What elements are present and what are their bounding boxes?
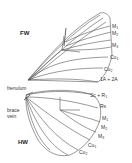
hw-vein-m3: M3 [98,134,104,141]
hw-vein-cu1: Cu1 [88,143,96,150]
hw-vein-rs: Rs [100,104,106,109]
frenulum-label: frenulum [7,86,26,91]
hindwing-label: HW [18,139,28,145]
fw-vein-cu1: Cu1 [110,55,118,62]
forewing-label: FW [20,30,29,36]
fw-vein-cu2: Cu2 [104,67,112,74]
fw-vein-m3: M3 [112,43,118,50]
hw-vein-m2: M2 [101,125,107,132]
hw-vein-m1: M1 [102,116,108,123]
hw-vein-cu2: Cu2 [79,150,87,157]
hw-vein-sc-r1: Sc + R1 [90,93,107,100]
brace-vein-label: brace vein [7,107,20,119]
fw-vein-anal: 1A + 2A [100,77,118,82]
fw-vein-m2: M2 [112,31,118,38]
